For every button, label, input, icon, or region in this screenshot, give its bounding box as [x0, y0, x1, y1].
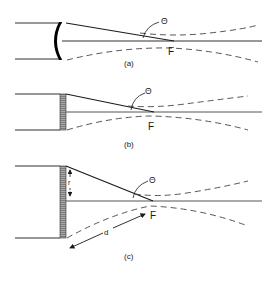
panel-a: Θ F (a) [15, 16, 262, 68]
panel-c: Θ r d F (c) [15, 166, 262, 261]
angle-label: Θ [145, 86, 152, 96]
concave-lens-icon [54, 22, 62, 60]
beam-envelope-lower [67, 48, 258, 62]
converging-ray [66, 23, 174, 41]
angle-arc-icon [143, 22, 159, 38]
hatched-transducer-icon [60, 94, 66, 130]
converging-ray [66, 166, 153, 201]
beam-focusing-diagram: Θ F (a) Θ F (b) Θ r d F (c) [0, 0, 275, 283]
distance-arrow-to-edge [70, 233, 103, 248]
panel-caption: (a) [124, 59, 134, 68]
hatched-transducer-icon [60, 166, 66, 238]
distance-arrow-to-focus [113, 214, 145, 228]
angle-label: Θ [161, 16, 168, 26]
panel-caption: (b) [124, 140, 134, 149]
beam-envelope-lower [67, 116, 248, 130]
panel-caption: (c) [124, 252, 134, 261]
distance-label: d [104, 228, 108, 237]
beam-envelope-upper [128, 96, 248, 107]
radius-label: r [68, 179, 71, 186]
focus-label: F [148, 121, 154, 132]
focus-label: F [168, 46, 174, 57]
focus-label: F [150, 210, 156, 221]
beam-envelope-upper [140, 25, 258, 35]
beam-envelope-lower [67, 206, 248, 238]
angle-label: Θ [149, 175, 156, 185]
panel-b: Θ F (b) [15, 86, 262, 149]
converging-ray [66, 94, 154, 112]
